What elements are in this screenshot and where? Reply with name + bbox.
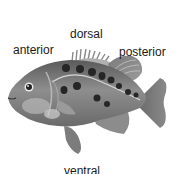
ventral-label: ventral: [64, 165, 100, 174]
dorsal-label: dorsal: [70, 28, 103, 40]
posterior-label: posterior: [119, 46, 166, 58]
fish-orientation-diagram: dorsal anterior posterior ventral: [0, 0, 180, 174]
pelvic-fin: [64, 126, 81, 154]
anterior-label: anterior: [13, 44, 54, 56]
